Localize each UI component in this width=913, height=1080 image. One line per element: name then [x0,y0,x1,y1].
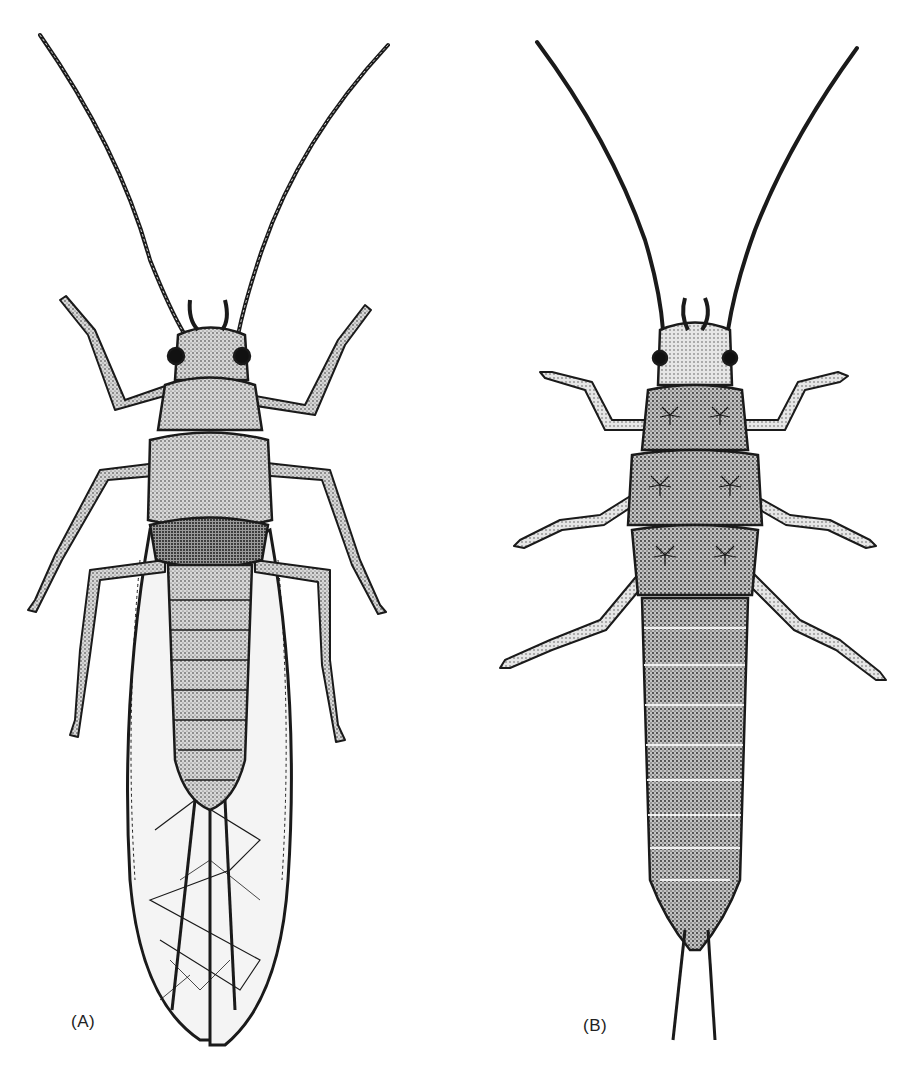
panel-label-a: (A) [71,1012,95,1032]
stonefly-nymph-illustration [460,0,913,1080]
figure-panel-a [0,0,460,1080]
panel-label-b: (B) [583,1016,607,1036]
antenna-icon [40,35,388,335]
figure-panel-b [460,0,913,1080]
adult-stonefly-illustration [0,0,460,1080]
